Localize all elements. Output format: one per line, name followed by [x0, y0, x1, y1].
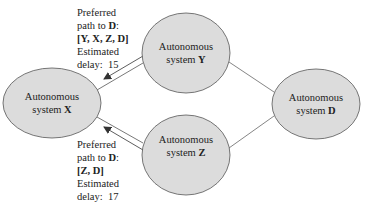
annot-y-delay: delay: 15: [77, 58, 129, 71]
annot-y-line4: Estimated: [77, 45, 129, 58]
node-d-line2: system D: [272, 104, 360, 117]
annot-z-path-value: [Z, D]: [77, 165, 104, 176]
node-y-line2: system Y: [142, 53, 230, 66]
annotation-from-z: Preferred path to D: [Z, D] Estimated de…: [77, 138, 119, 203]
annot-z-line2: path to D:: [77, 151, 119, 164]
node-d-id: D: [328, 105, 336, 116]
annotation-from-y: Preferred path to D: [Y, X, Z, D] Estima…: [77, 6, 129, 71]
annot-z-delay: delay: 17: [77, 190, 119, 203]
node-z-label: Autonomous system Z: [142, 133, 230, 159]
annot-y-line2: path to D:: [77, 19, 129, 32]
annot-y-suffix: :: [116, 20, 119, 31]
annot-y-prefix: path to: [77, 20, 109, 31]
node-d-prefix: system: [296, 105, 328, 116]
link-z-d: [229, 116, 274, 148]
annot-z-line1: Preferred: [77, 138, 119, 151]
annot-z-line4: Estimated: [77, 177, 119, 190]
annot-z-delay-value: 17: [108, 191, 119, 202]
node-y-id: Y: [198, 54, 206, 65]
node-x-prefix: system: [32, 104, 64, 115]
node-d-label: Autonomous system D: [272, 91, 360, 117]
node-z-line1: Autonomous: [142, 133, 230, 146]
annot-y-dest: D: [109, 20, 117, 31]
annot-z-prefix: path to: [77, 152, 109, 163]
annot-y-delay-value: 15: [108, 59, 119, 70]
annot-z-path: [Z, D]: [77, 164, 119, 177]
annot-y-path: [Y, X, Z, D]: [77, 32, 129, 45]
annot-y-path-value: [Y, X, Z, D]: [77, 33, 129, 44]
node-x-id: X: [64, 104, 72, 115]
node-z-id: Z: [198, 147, 205, 158]
annot-z-delay-label: delay:: [77, 191, 103, 202]
node-y-line1: Autonomous: [142, 40, 230, 53]
node-z-prefix: system: [167, 147, 199, 158]
node-x-line1: Autonomous: [3, 90, 101, 103]
annot-z-suffix: :: [116, 152, 119, 163]
annot-y-delay-label: delay:: [77, 59, 103, 70]
node-y-label: Autonomous system Y: [142, 40, 230, 66]
node-x-label: Autonomous system X: [3, 90, 101, 116]
link-y-d: [229, 62, 274, 92]
node-z-line2: system Z: [142, 146, 230, 159]
annot-y-line1: Preferred: [77, 6, 129, 19]
node-x-line2: system X: [3, 103, 101, 116]
node-d-line1: Autonomous: [272, 91, 360, 104]
node-y-prefix: system: [166, 54, 198, 65]
annot-z-dest: D: [109, 152, 117, 163]
